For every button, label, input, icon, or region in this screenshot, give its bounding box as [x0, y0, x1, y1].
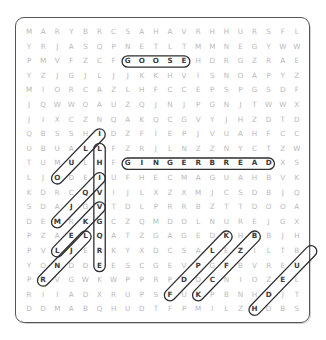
grid-cell[interactable]: Y [22, 40, 36, 55]
grid-cell[interactable]: Z [205, 200, 219, 215]
grid-cell[interactable]: S [121, 25, 135, 40]
grid-cell[interactable]: H [163, 69, 177, 84]
grid-cell[interactable]: P [22, 273, 36, 288]
grid-cell[interactable]: D [22, 302, 36, 317]
grid-cell[interactable]: F [107, 156, 121, 171]
grid-cell[interactable]: E [64, 229, 78, 244]
grid-cell[interactable]: K [107, 244, 121, 259]
grid-cell[interactable]: Y [22, 69, 36, 84]
grid-cell[interactable]: D [36, 200, 50, 215]
grid-cell[interactable]: D [290, 113, 304, 128]
grid-cell[interactable]: I [233, 273, 247, 288]
grid-cell[interactable]: A [233, 171, 247, 186]
grid-cell[interactable]: Q [78, 186, 92, 201]
grid-cell[interactable]: G [177, 229, 191, 244]
grid-cell[interactable]: G [205, 259, 219, 274]
letter-grid[interactable]: MARYBRCSAHAVRHHURSFLYRJASQPNETLTMMNEGYWW… [22, 25, 304, 317]
grid-cell[interactable]: J [22, 98, 36, 113]
grid-cell[interactable]: I [36, 113, 50, 128]
grid-cell[interactable]: J [149, 98, 163, 113]
grid-cell[interactable]: K [135, 69, 149, 84]
grid-cell[interactable]: Z [107, 83, 121, 98]
grid-cell[interactable]: U [233, 25, 247, 40]
grid-cell[interactable]: O [177, 215, 191, 230]
grid-cell[interactable]: U [121, 288, 135, 303]
grid-cell[interactable]: J [36, 171, 50, 186]
grid-cell[interactable]: F [163, 288, 177, 303]
grid-cell[interactable]: V [276, 171, 290, 186]
grid-cell[interactable]: J [107, 69, 121, 84]
grid-cell[interactable]: X [92, 288, 106, 303]
grid-cell[interactable]: Y [121, 244, 135, 259]
grid-cell[interactable]: O [50, 83, 64, 98]
grid-cell[interactable]: N [205, 215, 219, 230]
grid-cell[interactable]: Q [135, 98, 149, 113]
grid-cell[interactable]: D [107, 127, 121, 142]
grid-cell[interactable]: A [64, 40, 78, 55]
grid-cell[interactable]: Y [233, 142, 247, 157]
grid-cell[interactable]: E [78, 244, 92, 259]
grid-cell[interactable]: C [276, 127, 290, 142]
grid-cell[interactable]: D [149, 244, 163, 259]
grid-cell[interactable]: D [248, 200, 262, 215]
grid-cell[interactable]: T [149, 40, 163, 55]
grid-cell[interactable]: F [149, 83, 163, 98]
grid-cell[interactable]: A [233, 127, 247, 142]
grid-cell[interactable]: J [121, 186, 135, 201]
grid-cell[interactable]: M [205, 40, 219, 55]
grid-cell[interactable]: E [78, 171, 92, 186]
grid-cell[interactable]: Z [191, 142, 205, 157]
grid-cell[interactable]: X [149, 186, 163, 201]
grid-cell[interactable]: K [92, 273, 106, 288]
grid-cell[interactable]: R [163, 200, 177, 215]
grid-cell[interactable]: D [78, 259, 92, 274]
grid-cell[interactable]: G [163, 156, 177, 171]
grid-cell[interactable]: T [233, 200, 247, 215]
grid-cell[interactable]: D [276, 83, 290, 98]
grid-cell[interactable]: W [64, 98, 78, 113]
grid-cell[interactable]: G [233, 54, 247, 69]
grid-cell[interactable]: C [219, 186, 233, 201]
grid-cell[interactable]: Z [233, 302, 247, 317]
grid-cell[interactable]: N [92, 113, 106, 128]
grid-cell[interactable]: Q [92, 40, 106, 55]
grid-cell[interactable]: X [177, 186, 191, 201]
grid-cell[interactable]: K [149, 69, 163, 84]
grid-cell[interactable]: D [36, 302, 50, 317]
grid-cell[interactable]: C [290, 127, 304, 142]
grid-cell[interactable]: P [177, 127, 191, 142]
grid-cell[interactable]: E [177, 156, 191, 171]
grid-cell[interactable]: S [290, 156, 304, 171]
grid-cell[interactable]: E [191, 83, 205, 98]
grid-cell[interactable]: F [163, 302, 177, 317]
grid-cell[interactable]: P [163, 273, 177, 288]
grid-cell[interactable]: N [163, 98, 177, 113]
grid-cell[interactable]: D [22, 215, 36, 230]
grid-cell[interactable]: L [219, 302, 233, 317]
grid-cell[interactable]: L [290, 25, 304, 40]
grid-cell[interactable]: T [22, 156, 36, 171]
grid-cell[interactable]: I [36, 83, 50, 98]
grid-cell[interactable]: F [107, 142, 121, 157]
grid-cell[interactable]: W [290, 142, 304, 157]
grid-cell[interactable]: B [248, 229, 262, 244]
grid-cell[interactable]: U [219, 127, 233, 142]
grid-cell[interactable]: Z [121, 127, 135, 142]
grid-cell[interactable]: S [163, 54, 177, 69]
grid-cell[interactable]: M [149, 215, 163, 230]
grid-cell[interactable]: E [233, 156, 247, 171]
grid-cell[interactable]: C [163, 83, 177, 98]
grid-cell[interactable]: E [36, 215, 50, 230]
grid-cell[interactable]: A [64, 288, 78, 303]
grid-cell[interactable]: M [22, 83, 36, 98]
grid-cell[interactable]: E [276, 273, 290, 288]
grid-cell[interactable]: Z [276, 142, 290, 157]
grid-cell[interactable]: T [107, 200, 121, 215]
grid-cell[interactable]: F [121, 171, 135, 186]
grid-cell[interactable]: I [191, 69, 205, 84]
grid-cell[interactable]: R [177, 200, 191, 215]
grid-cell[interactable]: M [191, 40, 205, 55]
grid-cell[interactable]: J [149, 142, 163, 157]
grid-cell[interactable]: C [248, 142, 262, 157]
grid-cell[interactable]: V [50, 54, 64, 69]
